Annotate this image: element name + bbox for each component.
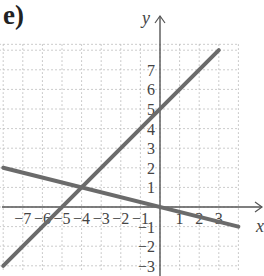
y-tick-label: −2	[138, 238, 155, 255]
y-tick-label: 6	[147, 81, 155, 98]
x-tick-label: −7	[14, 210, 31, 227]
axes: yx	[2, 8, 264, 276]
y-tick-label: 2	[147, 160, 155, 177]
y-tick-label: −3	[138, 258, 155, 275]
y-tick-label: 7	[147, 62, 155, 79]
grid	[0, 44, 238, 271]
x-axis-label: x	[255, 216, 264, 236]
y-tick-label: 3	[147, 140, 155, 157]
x-tick-label: −3	[93, 210, 110, 227]
series-line-1	[3, 50, 219, 266]
x-tick-label: −4	[73, 210, 90, 227]
y-tick-label: −1	[138, 219, 155, 236]
chart: yx −7−6−5−4−3−2−1123−3−2−11234567	[0, 0, 264, 276]
x-tick-label: −2	[112, 210, 129, 227]
y-axis-label: y	[140, 8, 150, 28]
y-tick-label: 1	[147, 179, 155, 196]
